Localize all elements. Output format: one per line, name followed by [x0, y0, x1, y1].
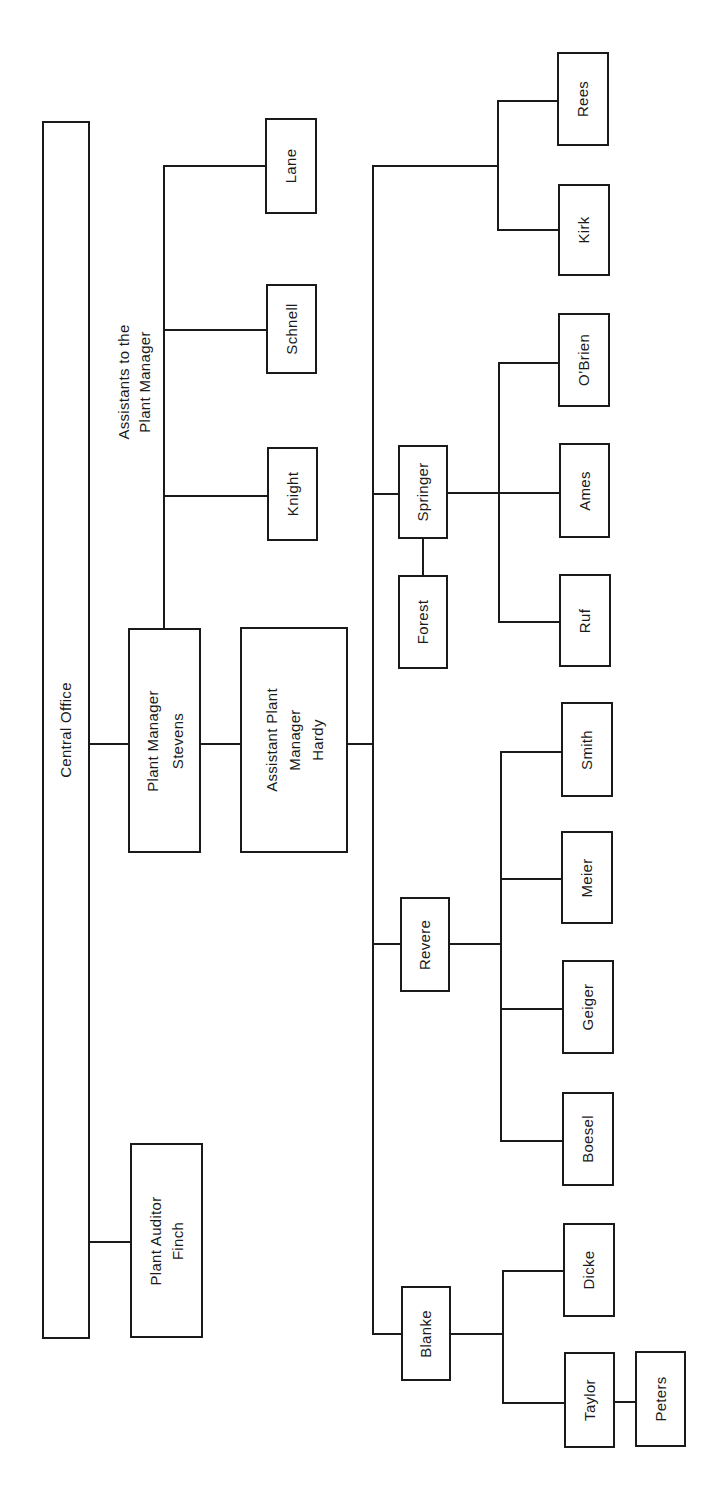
- assistant-plant-manager-label: Assistant Plant Manager Hardy: [260, 688, 329, 792]
- ames-label: Ames: [574, 471, 596, 511]
- smith-box[interactable]: Smith: [561, 702, 613, 797]
- plant-manager-name: Stevens: [165, 690, 190, 791]
- assistant-plant-manager-title-1: Assistant Plant: [260, 688, 283, 792]
- revere-name: Revere: [414, 919, 436, 969]
- connector-to-dicke: [502, 1270, 563, 1272]
- connector-springer-out: [447, 492, 559, 494]
- plant-manager-box[interactable]: Plant Manager Stevens: [128, 628, 201, 853]
- lane-name: Lane: [280, 149, 302, 184]
- blanke-box[interactable]: Blanke: [401, 1286, 451, 1381]
- connector-central-to-auditor: [89, 1241, 130, 1243]
- plant-auditor-box[interactable]: Plant Auditor Finch: [130, 1143, 203, 1338]
- connector-springer-trunk: [498, 362, 500, 622]
- connector-taylor-to-peters: [614, 1401, 636, 1403]
- taylor-name: Taylor: [579, 1379, 601, 1421]
- peters-box[interactable]: Peters: [635, 1351, 686, 1447]
- connector-assistants-trunk: [163, 165, 165, 629]
- connector-revere-trunk: [500, 751, 502, 1141]
- connector-to-smith: [500, 751, 561, 753]
- connector-to-meier: [500, 878, 562, 880]
- assistants-label-line-1: Assistants to the: [113, 324, 134, 439]
- springer-label: Springer: [412, 462, 434, 521]
- connector-to-revere: [372, 943, 401, 945]
- plant-auditor-name: Finch: [167, 1196, 189, 1285]
- connector-kirk-rees-trunk: [497, 100, 499, 230]
- assistant-plant-manager-name: Hardy: [306, 688, 329, 792]
- boesel-name: Boesel: [577, 1115, 599, 1163]
- blanke-name: Blanke: [415, 1310, 437, 1358]
- kirk-box[interactable]: Kirk: [558, 184, 610, 276]
- connector-manager-to-assistant: [201, 743, 241, 745]
- forest-name: Forest: [412, 600, 434, 644]
- forest-label: Forest: [412, 600, 434, 644]
- plant-auditor-label: Plant Auditor Finch: [145, 1196, 189, 1285]
- ruf-box[interactable]: Ruf: [559, 574, 611, 667]
- peters-name: Peters: [650, 1376, 672, 1421]
- assistants-label-line-2: Plant Manager: [134, 324, 155, 439]
- knight-box[interactable]: Knight: [267, 447, 318, 541]
- central-office-box[interactable]: Central Office: [42, 121, 90, 1339]
- knight-label: Knight: [282, 472, 304, 516]
- assistant-plant-manager-box[interactable]: Assistant Plant Manager Hardy: [240, 627, 348, 853]
- dicke-name: Dicke: [578, 1250, 600, 1289]
- schnell-label: Schnell: [281, 303, 303, 354]
- taylor-label: Taylor: [579, 1379, 601, 1421]
- rees-name: Rees: [572, 81, 594, 117]
- forest-box[interactable]: Forest: [398, 575, 448, 669]
- central-office-label: Central Office: [55, 682, 77, 778]
- lane-label: Lane: [280, 149, 302, 184]
- obrien-label: O’Brien: [573, 334, 595, 386]
- springer-name: Springer: [412, 462, 434, 521]
- connector-to-knight: [163, 495, 267, 497]
- knight-name: Knight: [282, 472, 304, 516]
- connector-to-obrien: [498, 362, 559, 364]
- blanke-label: Blanke: [415, 1310, 437, 1358]
- kirk-label: Kirk: [573, 216, 595, 243]
- dicke-box[interactable]: Dicke: [563, 1223, 615, 1317]
- connector-springer-forest: [422, 538, 424, 576]
- assistants-group-label: Assistants to the Plant Manager: [113, 324, 155, 439]
- connector-to-ruf: [498, 621, 560, 623]
- dicke-label: Dicke: [578, 1250, 600, 1289]
- connector-to-schnell: [163, 329, 267, 331]
- connector-to-rees: [497, 100, 558, 102]
- connector-blanke-trunk: [502, 1270, 504, 1403]
- springer-box[interactable]: Springer: [398, 445, 448, 539]
- meier-name: Meier: [576, 858, 598, 897]
- connector-to-taylor: [502, 1402, 565, 1404]
- smith-name: Smith: [576, 730, 598, 770]
- schnell-name: Schnell: [281, 303, 303, 354]
- boesel-box[interactable]: Boesel: [562, 1092, 614, 1186]
- connector-assistant-to-trunk: [347, 743, 373, 745]
- assistant-plant-manager-title-2: Manager: [283, 688, 306, 792]
- meier-box[interactable]: Meier: [561, 831, 613, 924]
- plant-manager-label: Plant Manager Stevens: [140, 690, 190, 791]
- lane-box[interactable]: Lane: [265, 118, 317, 214]
- obrien-box[interactable]: O’Brien: [558, 313, 610, 407]
- ames-name: Ames: [574, 471, 596, 511]
- revere-label: Revere: [414, 919, 436, 969]
- rees-label: Rees: [572, 81, 594, 117]
- connector-to-kirk: [497, 229, 558, 231]
- revere-box[interactable]: Revere: [400, 897, 450, 992]
- geiger-name: Geiger: [577, 984, 599, 1031]
- rees-box[interactable]: Rees: [557, 52, 609, 146]
- boesel-label: Boesel: [577, 1115, 599, 1163]
- connector-to-geiger: [500, 1008, 563, 1010]
- connector-blanke-out: [450, 1333, 503, 1335]
- peters-label: Peters: [650, 1376, 672, 1421]
- ruf-name: Ruf: [574, 608, 596, 632]
- kirk-name: Kirk: [573, 216, 595, 243]
- connector-main-trunk: [372, 165, 374, 1334]
- connector-to-lane: [163, 165, 267, 167]
- geiger-label: Geiger: [577, 984, 599, 1031]
- plant-manager-title: Plant Manager: [140, 690, 165, 791]
- taylor-box[interactable]: Taylor: [564, 1352, 615, 1448]
- ruf-label: Ruf: [574, 608, 596, 632]
- connector-to-springer: [372, 493, 399, 495]
- connector-to-kirk-rees: [372, 165, 498, 167]
- schnell-box[interactable]: Schnell: [266, 284, 317, 374]
- ames-box[interactable]: Ames: [559, 443, 610, 538]
- geiger-box[interactable]: Geiger: [562, 960, 614, 1054]
- connector-central-to-manager: [89, 743, 129, 745]
